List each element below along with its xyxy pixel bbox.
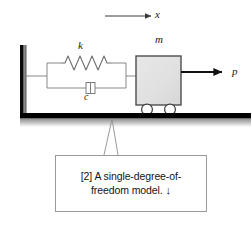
label-damping-c: c [84, 92, 88, 102]
label-stiffness-k: k [78, 40, 83, 51]
label-displacement-x: x [155, 9, 160, 20]
fixed-wall-support [20, 45, 27, 115]
figure-canvas: x k c m p [2] A single-degree-of- freedo… [0, 0, 252, 226]
caption-text: [2] A single-degree-of- freedom model.↓ [75, 170, 187, 197]
label-force-p: p [232, 66, 238, 77]
spring-element [62, 56, 110, 70]
ground-line [20, 113, 251, 127]
caption-line-2: freedom model. [91, 184, 163, 196]
label-mass-m: m [155, 34, 163, 45]
mass-block [136, 56, 181, 105]
down-arrow-icon: ↓ [163, 184, 171, 196]
caption-box: [2] A single-degree-of- freedom model.↓ [55, 155, 207, 212]
caption-line-1: [2] A single-degree-of- [81, 170, 181, 182]
